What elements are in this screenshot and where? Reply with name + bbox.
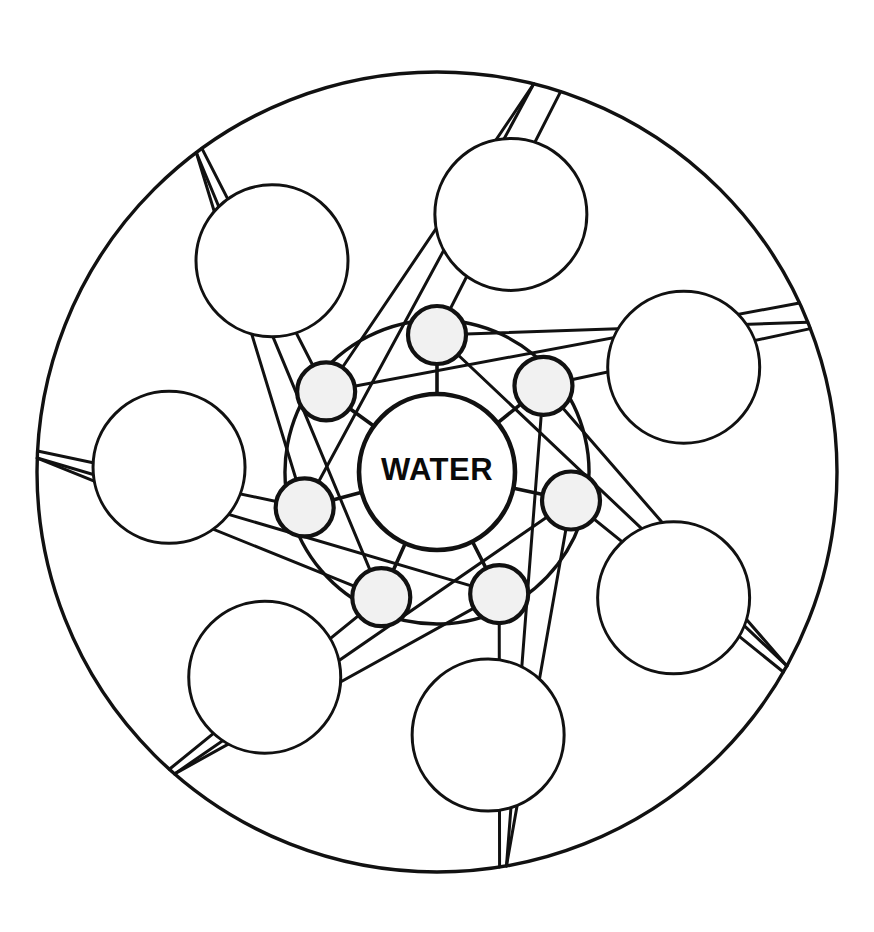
node-circle <box>352 568 410 626</box>
mandala-figure: WATER <box>0 0 874 932</box>
large-open-circle <box>435 138 587 290</box>
large-open-circle <box>608 291 760 443</box>
large-open-circle <box>598 522 750 674</box>
node-circle <box>542 471 600 529</box>
large-open-circle <box>189 601 341 753</box>
node-circle <box>470 565 528 623</box>
mandala-canvas: WATER <box>0 0 874 932</box>
large-open-circle <box>196 185 348 337</box>
node-circle <box>297 362 355 420</box>
node-circle <box>276 478 334 536</box>
large-open-circle <box>93 391 245 543</box>
node-circle <box>408 306 466 364</box>
large-open-circle <box>412 659 564 811</box>
node-circle <box>514 357 572 415</box>
core-label-water: WATER <box>381 452 493 487</box>
